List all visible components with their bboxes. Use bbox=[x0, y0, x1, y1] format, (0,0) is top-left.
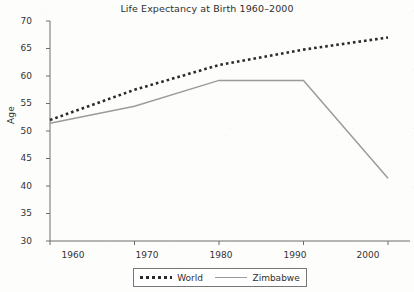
legend-label-zimbabwe: Zimbabwe bbox=[252, 273, 299, 283]
plot-canvas bbox=[0, 0, 414, 292]
legend-entry-zimbabwe: Zimbabwe bbox=[215, 273, 299, 283]
dotted-line-swatch-icon bbox=[140, 276, 172, 279]
x-axis-ticks bbox=[50, 241, 388, 245]
series-line-zimbabwe bbox=[50, 80, 388, 178]
series-line-world bbox=[50, 38, 388, 121]
solid-line-swatch-icon bbox=[215, 277, 247, 278]
chart-legend: World Zimbabwe bbox=[133, 268, 307, 287]
y-axis-ticks bbox=[46, 21, 50, 241]
legend-label-world: World bbox=[177, 273, 203, 283]
line-chart: Life Expectancy at Birth 1960–2000 Age 7… bbox=[0, 0, 414, 292]
legend-entry-world: World bbox=[140, 273, 203, 283]
